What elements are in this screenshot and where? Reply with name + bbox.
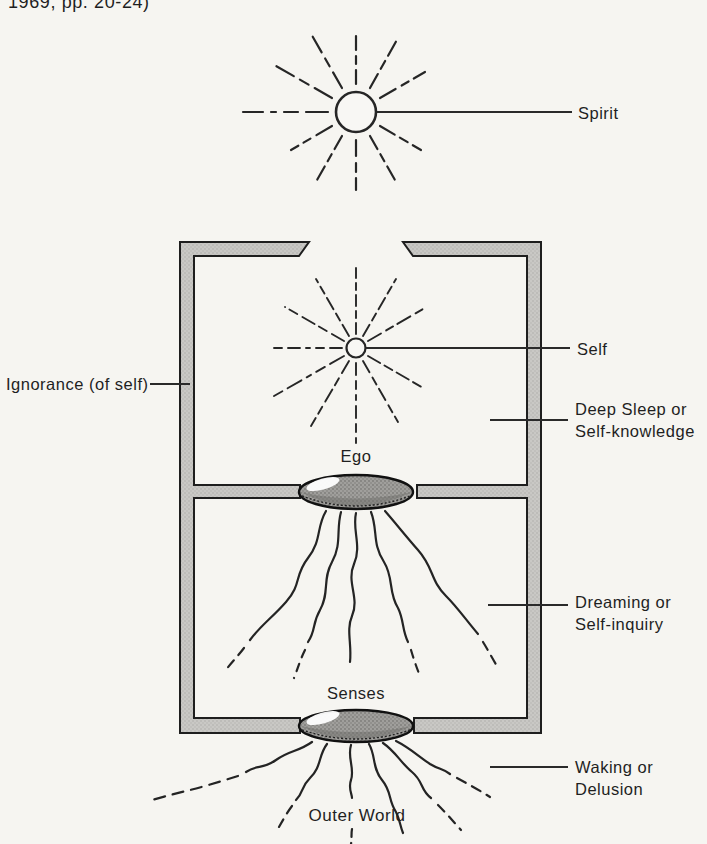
spirit-label: Spirit: [578, 102, 619, 124]
scanned-book-page: 1969, pp. 20-24) Spirit Self Ignorance (…: [0, 0, 707, 844]
senses-lens-icon: [299, 708, 413, 742]
waking-label: Waking or Delusion: [575, 756, 653, 800]
enclosure-left-wall: [180, 242, 309, 733]
enclosure-right-wall: [403, 242, 541, 733]
dreaming-label-line1: Dreaming or: [575, 591, 671, 613]
ego-label: Ego: [341, 445, 372, 467]
outer-world-label: Outer World: [309, 805, 406, 827]
ego-rays: [225, 511, 497, 678]
deep-sleep-label: Deep Sleep or Self-knowledge: [575, 398, 695, 442]
deep-sleep-label-line1: Deep Sleep or: [575, 398, 695, 420]
deep-sleep-label-line2: Self-knowledge: [575, 420, 695, 442]
pointer-lines: [150, 112, 572, 767]
waking-label-line2: Delusion: [575, 778, 653, 800]
dreaming-label: Dreaming or Self-inquiry: [575, 591, 671, 635]
dreaming-label-line2: Self-inquiry: [575, 613, 671, 635]
ignorance-label: Ignorance (of self): [6, 373, 148, 395]
ego-lens-icon: [299, 474, 413, 509]
senses-rays: [152, 741, 490, 844]
self-label: Self: [577, 338, 607, 360]
self-sun-icon: [268, 268, 425, 446]
senses-label: Senses: [327, 682, 385, 704]
page-caption-fragment: 1969, pp. 20-24): [8, 0, 150, 13]
spirit-sun-icon: [243, 32, 425, 190]
waking-label-line1: Waking or: [575, 756, 653, 778]
